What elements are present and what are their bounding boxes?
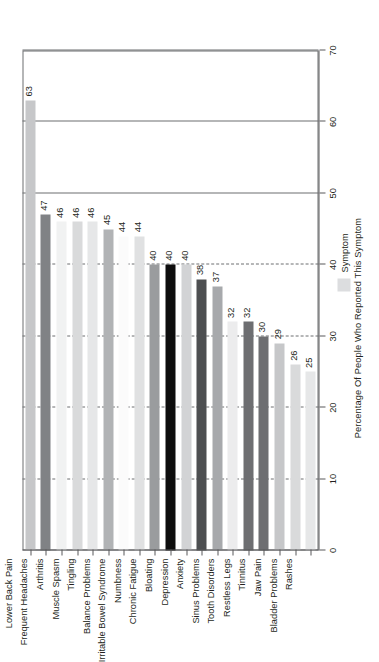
category-label: Arthritis	[34, 558, 44, 590]
bar-row: 37	[212, 50, 222, 550]
bar-value-label: 29	[272, 329, 282, 339]
bar[interactable]	[258, 336, 268, 550]
legend: Symptom	[337, 233, 350, 291]
category-label: Chronic Fatigue	[127, 558, 137, 624]
value-tick-30	[319, 335, 325, 336]
bar[interactable]	[305, 371, 315, 550]
category-label: Sinus Problems	[190, 558, 200, 623]
bar[interactable]	[165, 264, 175, 550]
bar[interactable]	[196, 279, 206, 550]
value-tick-70	[319, 49, 325, 50]
category-label: Irritable Bowel Syndrome	[96, 558, 106, 662]
bar-value-label: 44	[116, 221, 126, 231]
category-label: Frequent Headaches	[18, 558, 28, 645]
value-tick-60	[319, 120, 325, 121]
bar-row: 30	[258, 50, 268, 550]
bar[interactable]	[118, 236, 128, 550]
value-tick-20	[319, 406, 325, 407]
category-label: Jaw Pain	[252, 558, 262, 596]
legend-title: Symptom	[339, 233, 349, 272]
bar-row: 46	[56, 50, 66, 550]
bar[interactable]	[181, 264, 191, 550]
bar-row: 38	[196, 50, 206, 550]
bar-row: 25	[305, 50, 315, 550]
category-label: Balance Problems	[81, 558, 91, 633]
bar[interactable]	[227, 321, 237, 550]
value-tick-label-40: 40	[327, 259, 337, 269]
bar-value-label: 30	[256, 321, 266, 331]
value-tick-label-20: 20	[327, 402, 337, 412]
bar[interactable]	[56, 221, 66, 550]
bar-row: 47	[40, 50, 50, 550]
bar[interactable]	[103, 229, 113, 550]
value-tick-0	[319, 549, 325, 550]
legend-swatch	[337, 278, 350, 291]
bar-row: 40	[181, 50, 191, 550]
value-tick-40	[319, 263, 325, 264]
bar-value-label: 63	[23, 86, 33, 96]
y-axis-title: Percentage Of People Who Reported This S…	[352, 0, 362, 655]
value-tick-label-0: 0	[327, 547, 337, 552]
bar[interactable]	[72, 221, 82, 550]
bar[interactable]	[25, 100, 35, 550]
bar-value-label: 37	[210, 271, 220, 281]
bar[interactable]	[274, 343, 284, 550]
value-tick-label-50: 50	[327, 188, 337, 198]
bar-row: 29	[274, 50, 284, 550]
bar-row: 26	[290, 50, 300, 550]
category-label: Restless Legs	[221, 558, 231, 616]
category-label: Bladder Problems	[268, 558, 278, 632]
bar-value-label: 38	[194, 264, 204, 274]
bar-row: 45	[103, 50, 113, 550]
bar-value-label: 40	[179, 250, 189, 260]
category-label: Rashes	[283, 558, 293, 590]
bar-row: 40	[149, 50, 159, 550]
bar-row: 44	[134, 50, 144, 550]
value-tick-10	[319, 478, 325, 479]
category-labels: Lower Back PainFrequent HeadachesArthrit…	[0, 550, 296, 655]
bar-row: 40	[165, 50, 175, 550]
bar-row: 32	[243, 50, 253, 550]
bar-value-label: 26	[288, 350, 298, 360]
bar-value-label: 40	[163, 250, 173, 260]
bar-value-label: 44	[132, 221, 142, 231]
bar-value-label: 40	[147, 250, 157, 260]
bar[interactable]	[134, 236, 144, 550]
bar-value-label: 32	[241, 307, 251, 317]
category-label: Anxiety	[174, 558, 184, 589]
bar-row: 46	[87, 50, 97, 550]
bar-row: 63	[25, 50, 35, 550]
value-tick-label-30: 30	[327, 331, 337, 341]
value-tick-label-10: 10	[327, 473, 337, 483]
bar-value-label: 46	[70, 207, 80, 217]
category-tick	[310, 549, 311, 555]
bar-value-label: 47	[38, 200, 48, 210]
value-tick-50	[319, 192, 325, 193]
category-label: Depression	[159, 558, 169, 605]
bar-value-label: 25	[303, 357, 313, 367]
category-label: Numbness	[112, 558, 122, 602]
bar[interactable]	[243, 321, 253, 550]
category-label: Bloating	[143, 558, 153, 592]
bar-row: 32	[227, 50, 237, 550]
bar-row: 46	[72, 50, 82, 550]
bar[interactable]	[40, 214, 50, 550]
category-label: Muscle Spasm	[50, 558, 60, 619]
category-label: Tinnitus	[236, 558, 246, 590]
bar[interactable]	[149, 264, 159, 550]
value-axis: 010203040506070	[318, 50, 319, 550]
bar-row: 44	[118, 50, 128, 550]
bar[interactable]	[290, 364, 300, 550]
bar-value-label: 46	[85, 207, 95, 217]
category-label: Tooth Disorders	[205, 558, 215, 623]
category-label: Lower Back Pain	[3, 558, 13, 628]
bar-value-label: 46	[54, 207, 64, 217]
value-tick-label-70: 70	[327, 45, 337, 55]
bar[interactable]	[87, 221, 97, 550]
bar[interactable]	[212, 286, 222, 550]
bar-value-label: 45	[101, 214, 111, 224]
value-tick-label-60: 60	[327, 116, 337, 126]
bar-series: 63474646464544444040403837323230292625	[22, 50, 318, 550]
